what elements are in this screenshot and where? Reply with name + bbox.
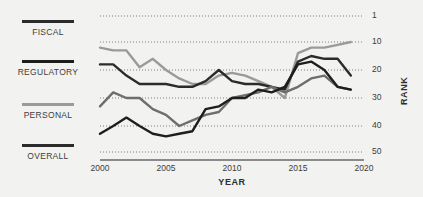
x-tick-2010: 2010	[212, 163, 252, 173]
y-axis-title: RANK	[399, 77, 409, 105]
legend-item-overall[interactable]: OVERALL	[0, 144, 96, 161]
y-tick-50: 50	[372, 146, 381, 156]
x-tick-2015: 2015	[278, 163, 318, 173]
series-lines	[100, 42, 351, 136]
legend-item-fiscal[interactable]: FISCAL	[0, 20, 96, 37]
x-axis-title: YEAR	[172, 177, 292, 187]
chart-screenshot: FISCAL REGULATORY PERSONAL OVERALL 11020…	[0, 0, 423, 197]
legend-item-personal[interactable]: PERSONAL	[0, 103, 96, 120]
legend-swatch-overall	[22, 144, 74, 147]
series-line-regulatory	[100, 56, 351, 90]
legend-swatch-personal	[22, 103, 74, 106]
x-tick-2000: 2000	[80, 163, 120, 173]
y-tick-10: 10	[372, 36, 381, 46]
x-tick-2005: 2005	[146, 163, 186, 173]
legend-swatch-regulatory	[22, 60, 74, 63]
x-tick-2020: 2020	[344, 163, 384, 173]
legend-label-personal: PERSONAL	[0, 110, 96, 120]
legend-swatch-fiscal	[22, 20, 74, 23]
legend-label-fiscal: FISCAL	[0, 27, 96, 37]
plot-area: 11020304050 20002005201020152020 YEAR RA…	[96, 0, 423, 197]
legend-item-regulatory[interactable]: REGULATORY	[0, 60, 96, 77]
y-tick-1: 1	[372, 10, 377, 20]
y-tick-20: 20	[372, 64, 381, 74]
y-tick-40: 40	[372, 120, 381, 130]
legend-label-overall: OVERALL	[0, 151, 96, 161]
y-tick-30: 30	[372, 92, 381, 102]
legend-label-regulatory: REGULATORY	[0, 67, 96, 77]
